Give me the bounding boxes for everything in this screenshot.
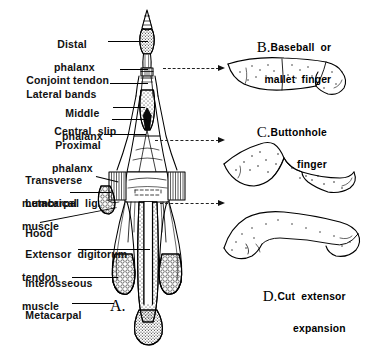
cut-extensor-expansion-illustration bbox=[222, 208, 362, 266]
panel-b-line2: mallet finger bbox=[239, 74, 331, 85]
panel-d-letter: D. bbox=[263, 288, 278, 304]
panel-c-line2: finger bbox=[239, 159, 327, 170]
pointer-arrow-to-panel-d bbox=[160, 203, 219, 204]
leader-conjoint-tendon bbox=[120, 69, 148, 70]
leader-middle-phalanx bbox=[113, 107, 145, 108]
figure-canvas: Distal phalanx Conjoint tendon Lateral b… bbox=[0, 0, 370, 354]
pointer-arrowhead-to-panel-c bbox=[218, 137, 225, 143]
pointer-arrow-to-panel-b bbox=[163, 68, 219, 69]
pointer-arrow-to-panel-c bbox=[155, 140, 219, 141]
panel-b-letter: B. bbox=[257, 39, 271, 55]
label-transverse-metacarpal-ligament-line1: Transverse bbox=[25, 174, 82, 186]
label-interosseous-muscle-line1: Interosseous bbox=[25, 277, 92, 289]
label-extensor-digitorum-tendon-line1: Extensor digitorum bbox=[25, 248, 127, 260]
label-distal-phalanx-line1: Distal bbox=[57, 38, 87, 50]
panel-c-letter: C. bbox=[257, 124, 271, 140]
leader-distal-phalanx bbox=[108, 41, 148, 42]
pointer-arrowhead-to-panel-b bbox=[218, 65, 225, 71]
panel-d-line2: expansion bbox=[245, 323, 346, 334]
label-metacarpal-line1: Metacarpal bbox=[25, 309, 81, 321]
leader-central-slip bbox=[112, 119, 147, 120]
panel-b-line1: Baseball or bbox=[271, 42, 332, 53]
label-metacarpal: Metacarpal bbox=[13, 298, 82, 333]
panel-d-caption: D.Cut extensor expansion bbox=[245, 268, 346, 354]
panel-a-letter: A. bbox=[110, 297, 126, 315]
panel-d-line1: Cut extensor bbox=[277, 291, 345, 302]
leader-lateral-bands bbox=[110, 83, 148, 84]
label-lumbrical-muscle-line1: Lumbrical bbox=[25, 197, 77, 209]
label-proximal-phalanx-line1: Proximal bbox=[55, 139, 101, 151]
panel-c-line1: Buttonhole bbox=[271, 127, 327, 138]
panel-c-caption: C.Buttonhole finger bbox=[239, 104, 327, 206]
pointer-arrowhead-to-panel-d bbox=[218, 200, 225, 206]
